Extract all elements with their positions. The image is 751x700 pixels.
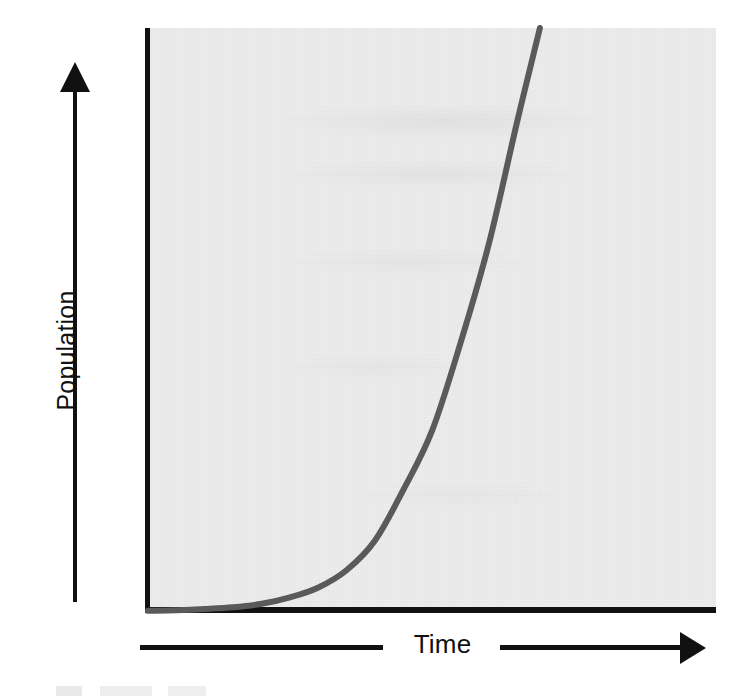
y-axis-title-text: Population (52, 290, 81, 410)
x-axis-label-group: Time (140, 632, 715, 666)
x-axis-title-text: Time (395, 629, 490, 660)
x-axis-rule-left (140, 645, 383, 650)
curve-path (148, 28, 540, 611)
exponential-growth-curve (148, 28, 716, 612)
clipped-caption-sliver (56, 686, 356, 696)
right-arrow-icon (680, 632, 706, 664)
figure-container: Population Time (0, 0, 751, 700)
x-axis-rule-right (500, 645, 683, 650)
y-axis-title: Population (0, 0, 100, 700)
